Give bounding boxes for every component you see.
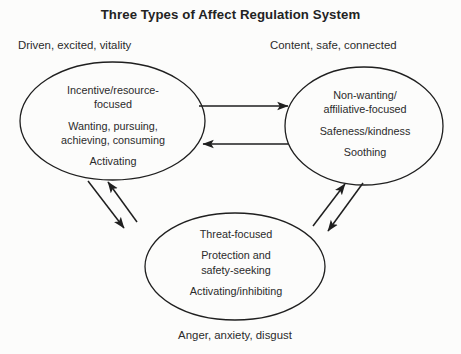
- drive-line-3: Activating: [22, 154, 204, 168]
- drive-line-2: Wanting, pursuing, achieving, consuming: [22, 119, 204, 148]
- drive-system-text: Incentive/resource- focused Wanting, pur…: [22, 83, 204, 168]
- text-layer: Three Types of Affect Regulation System …: [0, 0, 461, 354]
- threat-line-2: Protection and safety-seeking: [148, 248, 324, 277]
- soothing-system-text: Non-wanting/ affiliative-focused Safenes…: [287, 88, 443, 159]
- drive-system-caption: Driven, excited, vitality: [18, 38, 228, 53]
- threat-line-1: Threat-focused: [148, 227, 324, 241]
- soothing-line-2: Safeness/kindness: [287, 124, 443, 138]
- threat-line-3: Activating/inhibiting: [148, 284, 324, 298]
- threat-system-caption: Anger, anxiety, disgust: [120, 328, 350, 343]
- threat-system-text: Threat-focused Protection and safety-see…: [148, 227, 324, 298]
- soothing-line-1: Non-wanting/ affiliative-focused: [287, 88, 443, 117]
- drive-line-1: Incentive/resource- focused: [22, 83, 204, 112]
- soothing-system-caption: Content, safe, connected: [270, 38, 460, 53]
- soothing-line-3: Soothing: [287, 145, 443, 159]
- figure-title: Three Types of Affect Regulation System: [0, 6, 461, 23]
- affect-regulation-diagram: Three Types of Affect Regulation System …: [0, 0, 461, 354]
